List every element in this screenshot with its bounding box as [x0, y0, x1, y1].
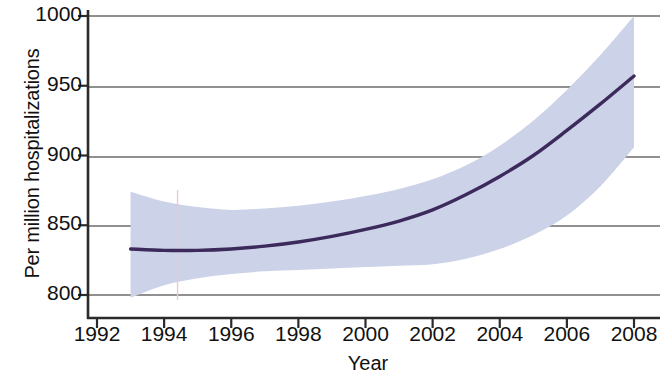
chart-container: Per million hospitalizations Year 800850…	[0, 0, 660, 379]
y-tick-label: 1000	[20, 2, 82, 26]
x-axis-title: Year	[88, 352, 648, 375]
y-tick-label: 800	[20, 281, 82, 305]
y-tick-label: 850	[20, 211, 82, 235]
x-tick-label: 2008	[589, 322, 660, 346]
y-tick-label: 900	[20, 142, 82, 166]
y-tick-label: 950	[20, 72, 82, 96]
